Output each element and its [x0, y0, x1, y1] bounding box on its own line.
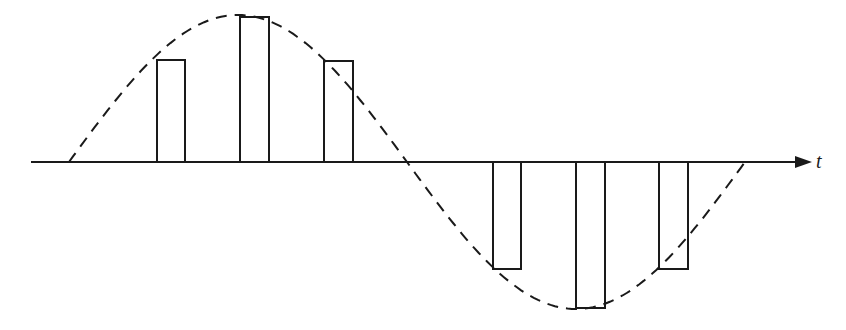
- pulse-positive-3: [324, 61, 353, 162]
- axis-arrow-icon: [795, 156, 812, 168]
- pulse-negative-6: [659, 162, 688, 269]
- pulse-positive-2: [240, 17, 269, 162]
- pulse-negative-4: [493, 162, 521, 269]
- time-axis-label: t: [816, 150, 822, 173]
- pulse-negative-5: [576, 162, 605, 308]
- pulse-positive-1: [157, 60, 185, 162]
- pulse-sine-diagram: [0, 0, 846, 330]
